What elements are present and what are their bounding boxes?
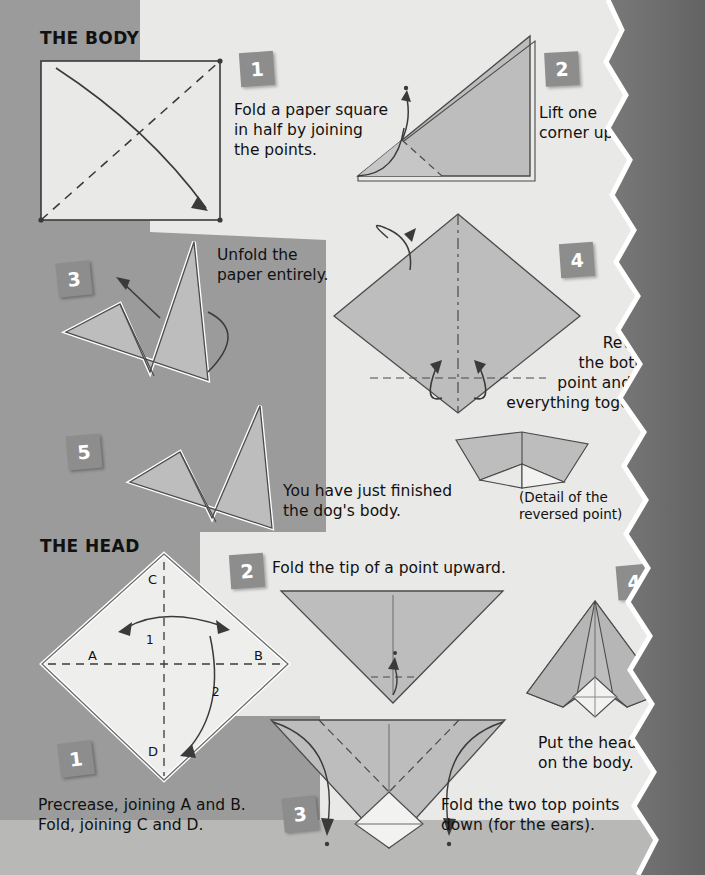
figure-head-step-2 bbox=[275, 585, 510, 710]
badge-body-step-3: 3 bbox=[55, 260, 92, 297]
figure-head-step-3 bbox=[263, 714, 513, 859]
svg-text:A: A bbox=[88, 648, 97, 663]
figure-body-step-1 bbox=[38, 58, 223, 223]
caption-head-step-2: Fold the tip of a point upward. bbox=[272, 558, 592, 578]
badge-body-step-5: 5 bbox=[66, 434, 103, 471]
svg-text:D: D bbox=[148, 744, 158, 759]
badge-body-step-1: 1 bbox=[239, 51, 275, 87]
paper-sheet: THE BODY 1 Fold a paper square in half b… bbox=[0, 0, 705, 875]
figure-reversed-point-detail bbox=[452, 430, 592, 492]
section-title-body: THE BODY bbox=[40, 28, 139, 48]
badge-body-step-4: 4 bbox=[559, 242, 595, 278]
svg-text:B: B bbox=[254, 648, 263, 663]
badge-head-step-2: 2 bbox=[229, 553, 265, 589]
origami-instruction-page: THE BODY 1 Fold a paper square in half b… bbox=[0, 0, 705, 875]
figure-body-step-2 bbox=[342, 28, 542, 193]
badge-body-step-2: 2 bbox=[544, 51, 580, 87]
svg-text:C: C bbox=[148, 572, 157, 587]
svg-text:1: 1 bbox=[146, 633, 154, 647]
badge-head-step-1: 1 bbox=[57, 740, 95, 778]
badge-head-step-3: 3 bbox=[281, 795, 318, 832]
svg-text:2: 2 bbox=[212, 685, 220, 699]
